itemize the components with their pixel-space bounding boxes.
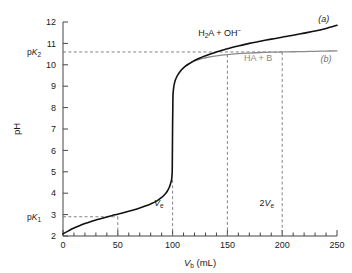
curve-a-species-label: H2A + OH− [198, 27, 241, 39]
y-axis-tick-label: 12 [46, 17, 56, 27]
chart-canvas: 23456789101112050100150200250pK2pK1H2A +… [0, 0, 352, 273]
x-axis-tick-label: 100 [165, 240, 180, 250]
y-axis-tick-label: 10 [46, 60, 56, 70]
second-equivalence-volume-label: 2Ve [260, 198, 275, 209]
pk2-label: pK2 [27, 47, 41, 58]
x-axis-title: Vb (mL) [184, 257, 216, 269]
titration-curve-chart: 23456789101112050100150200250pK2pK1H2A +… [0, 0, 352, 273]
equivalence-volume-label: Ve [154, 198, 164, 209]
y-axis-tick-label: 9 [51, 81, 56, 91]
x-axis-tick-label: 150 [220, 240, 235, 250]
y-axis-tick-label: 8 [51, 103, 56, 113]
curve-b-tag: (b) [321, 54, 332, 64]
y-axis-tick-label: 4 [51, 188, 56, 198]
x-axis-tick-label: 0 [60, 240, 65, 250]
curve-a-path [63, 25, 337, 234]
curve-b-species-label: HA + B [244, 53, 272, 63]
curve-a-tag: (a) [318, 14, 329, 24]
y-axis-tick-label: 3 [51, 210, 56, 220]
y-axis-tick-label: 11 [47, 39, 56, 49]
y-axis-tick-label: 2 [51, 231, 56, 241]
y-axis-tick-label: 5 [51, 167, 56, 177]
y-axis-tick-label: 6 [51, 146, 56, 156]
x-axis-tick-label: 250 [329, 240, 344, 250]
x-axis-tick-label: 50 [113, 240, 123, 250]
pk1-label: pK1 [27, 212, 41, 223]
y-axis-title: pH [11, 123, 22, 135]
y-axis-tick-label: 7 [51, 124, 56, 134]
x-axis-tick-label: 200 [275, 240, 290, 250]
